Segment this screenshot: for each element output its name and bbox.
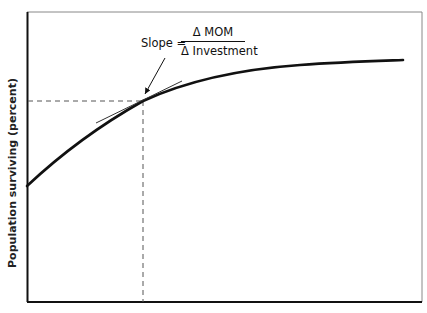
formula-fraction: Δ MOM Δ Investment bbox=[181, 24, 245, 59]
tangent-line bbox=[96, 81, 182, 123]
formula-lhs: Slope = bbox=[141, 36, 186, 50]
survival-curve bbox=[27, 60, 403, 186]
fraction-bar bbox=[181, 41, 245, 42]
diagram-figure: Population surviving (percent) Slope = Δ… bbox=[0, 0, 427, 313]
y-axis-label: Population surviving (percent) bbox=[6, 78, 19, 268]
formula-denominator: Δ Investment bbox=[181, 43, 245, 59]
formula-numerator: Δ MOM bbox=[181, 24, 245, 40]
slope-arrow bbox=[145, 58, 165, 94]
